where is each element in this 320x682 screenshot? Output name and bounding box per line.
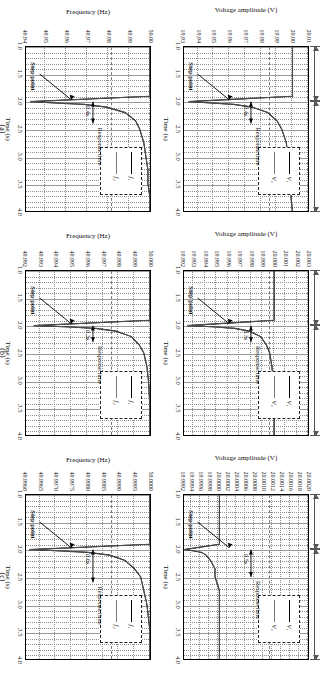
y-tick-label: 49.998 [117,251,123,268]
annotation-arrows-b-frequency [26,271,150,435]
y-tick-label: 49.9985 [101,472,107,492]
y-tick-label: 20.0018 [297,472,303,492]
y-tick-label: 49.98 [106,30,112,44]
y-tick-label: 20.002 [295,251,301,268]
x-tick-label: 1.5 [17,294,24,302]
x-tick-label: 2.5 [17,573,24,581]
x-tick-label: 4.0 [175,208,182,216]
y-tick-label: 19.996 [226,251,232,268]
plot-panel-a-voltage: V₁V₂Step pointResponse time0.4s20.0120.0… [183,46,309,212]
y-tick-label: 49.99 [127,30,133,44]
y-tick-label: 19.96 [227,30,233,44]
annotation-arrows-c-voltage [184,495,308,659]
x-tick-label: 2.0 [17,321,24,329]
plot-area-c-frequency: f₁f₂Step pointResponse time0.6s [25,494,151,660]
figure-rotation-wrapper: V₁V₂Step pointResponse time0.4s20.0120.0… [0,0,319,682]
y-tick-label: 50.00 [148,30,154,44]
figure-column-c: V₁V₂Step pointResponse time0.5s20.002020… [0,450,319,672]
annotation-response-time: Response time [255,346,262,384]
x-tick-label: 2.0 [17,545,24,553]
y-axis-title: Voltage amplitude (V) [215,454,277,462]
y-tick-label: 19.99 [275,30,281,44]
span-arrow-left [313,494,319,499]
load-span-annotations: Load 1Load 2 parallel connection [310,270,319,436]
annotation-step-point: Step point [187,510,194,538]
y-axis-title: Voltage amplitude (V) [215,230,277,238]
x-tick-label: 2.0 [175,97,182,105]
y-tick-label: 20.0008 [252,472,258,492]
annotation-response-time: Response time [97,587,104,625]
span-arrow-left [313,325,319,330]
y-tick-label: 49.96 [64,30,70,44]
plot-panel-a-frequency: f₁f₂Step pointResponse time0.4s50.0049.9… [25,46,151,212]
x-tick-label: 1.0 [175,490,182,498]
y-axis-title: Frequency (Hz) [66,232,110,240]
annotation-arrows-b-voltage [184,271,308,435]
span-arrow-left [313,101,319,106]
annotation-response-duration: 0.5s [243,554,249,564]
y-tick-label: 49.9995 [132,472,138,492]
y-tick-label: 49.993 [38,251,44,268]
span-bar [314,101,315,212]
y-tick-label: 20.0002 [225,472,231,492]
y-tick-label: 49.995 [69,251,75,268]
y-tick-label: 49.9965 [38,472,44,492]
plot-panel-c-voltage: V₁V₂Step pointResponse time0.5s20.002020… [183,494,309,660]
y-tick-label: 20.0016 [288,472,294,492]
span-arrow-left [313,549,319,554]
load-span-annotations: Load 1Load 2 parallel connection [310,494,319,660]
x-tick-label: 1.0 [17,490,24,498]
y-tick-label: 50.000 [148,251,154,268]
x-tick-label: 1.0 [175,266,182,274]
x-axis-ticks-c-frequency: 1.01.52.02.53.03.54.0 [11,494,25,660]
y-tick-label: 49.97 [85,30,91,44]
x-tick-label: 2.5 [175,573,182,581]
x-tick-label: 1.0 [17,266,24,274]
y-tick-label: 19.993 [191,251,197,268]
y-tick-label: 19.98 [259,30,265,44]
annotation-response-time: Response time [255,127,262,165]
y-tick-label: 19.994 [203,251,209,268]
x-tick-label: 1.0 [175,42,182,50]
x-tick-label: 4.0 [17,432,24,440]
x-tick-label: 3.0 [175,377,182,385]
x-tick-label: 4.0 [17,656,24,664]
y-tick-label: 20.0020 [306,472,312,492]
annotation-response-time: Response time [255,581,262,619]
annotation-arrows-c-frequency [26,495,150,659]
x-tick-label: 3.0 [17,601,24,609]
y-tick-label: 49.9960 [22,472,28,492]
plot-area-b-frequency: f₁f₂Step pointResponse time0.3s [25,270,151,436]
x-tick-label: 3.5 [17,180,24,188]
x-tick-label: 2.5 [175,125,182,133]
y-tick-label: 19.992 [180,251,186,268]
x-axis-ticks-b-voltage: 1.01.52.02.53.03.54.0 [169,270,183,436]
x-tick-label: 1.5 [175,70,182,78]
x-tick-label: 3.5 [17,404,24,412]
span-arrow-right [313,207,319,212]
y-tick-label: 20.00 [290,30,296,44]
annotation-step-point: Step point [187,62,194,90]
annotation-arrows-a-voltage [184,47,308,211]
y-tick-label: 49.95 [43,30,49,44]
annotation-response-duration: 0.6s [85,554,91,564]
y-tick-label: 19.9996 [198,472,204,492]
y-tick-label: 20.000 [272,251,278,268]
y-tick-label: 19.995 [214,251,220,268]
x-tick-label: 1.5 [175,518,182,526]
y-tick-label: 49.9975 [69,472,75,492]
annotation-arrows-a-frequency [26,47,150,211]
plot-panel-b-voltage: V₁V₂Step pointResponse time0.3s20.00320.… [183,270,309,436]
panel-label-b: (b) [0,348,7,357]
y-tick-label: 49.999 [132,251,138,268]
y-tick-label: 20.0010 [261,472,267,492]
y-tick-label: 49.994 [54,251,60,268]
load-span-annotations: Load 1Load 2 parallel connection [310,46,319,212]
x-tick-label: 3.0 [175,153,182,161]
annotation-response-duration: 0.4s [243,106,249,116]
x-tick-label: 4.0 [175,432,182,440]
span-bar [314,46,315,101]
span-arrow-left [313,270,319,275]
x-tick-label: 1.5 [175,294,182,302]
y-tick-label: 19.94 [196,30,202,44]
